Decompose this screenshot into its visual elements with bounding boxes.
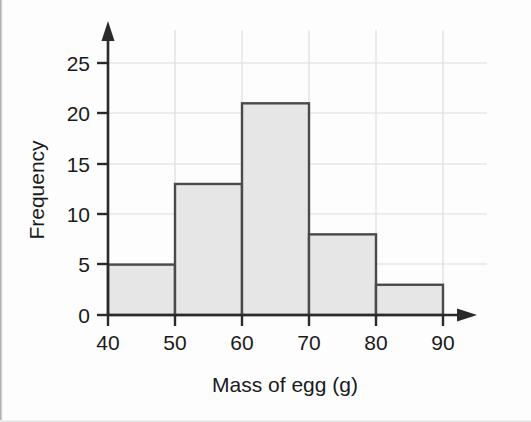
x-axis-arrow-icon [457, 309, 477, 322]
bar-50-60 [175, 184, 242, 315]
y-axis-ticks [97, 63, 108, 315]
bar-80-90 [376, 285, 443, 315]
x-tick-label-40: 40 [96, 331, 119, 354]
x-tick-label-80: 80 [364, 331, 387, 354]
y-tick-label-5: 5 [78, 253, 90, 276]
y-axis-tick-labels: 25 20 15 10 5 0 [67, 52, 90, 327]
histogram-chart: 25 20 15 10 5 0 40 50 60 70 80 90 Mass o… [0, 0, 531, 422]
x-tick-label-90: 90 [431, 331, 454, 354]
histogram-bars [108, 103, 443, 315]
x-tick-label-60: 60 [230, 331, 253, 354]
x-axis-title: Mass of egg (g) [212, 373, 358, 396]
x-tick-label-70: 70 [297, 331, 320, 354]
y-tick-label-20: 20 [67, 102, 90, 125]
y-tick-label-15: 15 [67, 153, 90, 176]
y-tick-label-0: 0 [78, 304, 90, 327]
bar-40-50 [108, 265, 175, 315]
x-axis-ticks [108, 315, 443, 326]
bar-70-80 [309, 234, 376, 315]
x-axis-tick-labels: 40 50 60 70 80 90 [96, 331, 454, 354]
y-axis-arrow-icon [102, 21, 115, 41]
x-tick-label-50: 50 [163, 331, 186, 354]
bar-60-70 [242, 103, 309, 315]
y-axis-title: Frequency [25, 140, 48, 240]
y-tick-label-25: 25 [67, 52, 90, 75]
histogram-figure: 25 20 15 10 5 0 40 50 60 70 80 90 Mass o… [0, 0, 531, 422]
y-tick-label-10: 10 [67, 203, 90, 226]
